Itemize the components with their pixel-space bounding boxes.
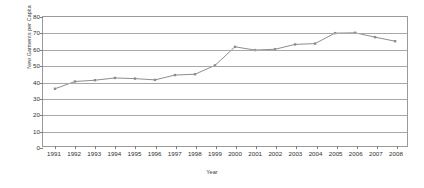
y-axis-tick-label: 10 <box>33 127 40 134</box>
data-point-marker <box>314 42 316 44</box>
x-axis-tick <box>196 146 197 149</box>
gridline <box>43 132 407 133</box>
gridline <box>43 83 407 84</box>
y-axis-tick <box>40 66 43 67</box>
y-axis-tick-label: 20 <box>33 111 40 118</box>
y-axis-tick <box>40 148 43 149</box>
y-axis-tick <box>40 50 43 51</box>
y-axis-tick-label: 30 <box>33 94 40 101</box>
x-axis-tick <box>317 146 318 149</box>
x-axis-tick <box>75 146 76 149</box>
x-axis-tick <box>357 146 358 149</box>
x-axis-tick <box>95 146 96 149</box>
data-point-marker <box>154 79 156 81</box>
x-axis-tick-label: 2001 <box>248 150 262 157</box>
x-axis-tick <box>115 146 116 149</box>
x-axis-tick-label: 2008 <box>389 150 403 157</box>
x-axis-tick <box>397 146 398 149</box>
data-point-marker <box>114 77 116 79</box>
x-axis-tick-labels: 1991199219931994199519961997199819992000… <box>42 150 408 164</box>
x-axis-tick-label: 2003 <box>289 150 303 157</box>
data-point-marker <box>394 40 396 42</box>
x-axis-tick <box>296 146 297 149</box>
x-axis-tick <box>377 146 378 149</box>
gridline <box>43 115 407 116</box>
x-axis-tick <box>156 146 157 149</box>
data-point-marker <box>174 74 176 76</box>
x-axis-tick-label: 1992 <box>67 150 81 157</box>
y-axis-tick-label: 50 <box>33 62 40 69</box>
y-axis-tick <box>40 83 43 84</box>
y-axis-tick <box>40 99 43 100</box>
x-axis-tick <box>216 146 217 149</box>
x-axis-tick-label: 1996 <box>148 150 162 157</box>
y-axis-tick <box>40 115 43 116</box>
x-axis-tick <box>135 146 136 149</box>
y-axis-tick-label: 40 <box>33 78 40 85</box>
x-axis-tick-label: 1995 <box>128 150 142 157</box>
data-point-marker <box>94 79 96 81</box>
x-axis-tick <box>55 146 56 149</box>
series-line <box>43 17 407 146</box>
x-axis-tick-label: 2000 <box>228 150 242 157</box>
x-axis-tick-label: 1999 <box>208 150 222 157</box>
gridline <box>43 99 407 100</box>
gridline <box>43 33 407 34</box>
gridline <box>43 66 407 67</box>
x-axis-tick-label: 1994 <box>107 150 121 157</box>
x-axis-tick-label: 2007 <box>369 150 383 157</box>
y-axis-tick-labels: 01020304050607080 <box>24 0 40 188</box>
data-point-marker <box>134 77 136 79</box>
x-axis-tick-label: 1997 <box>168 150 182 157</box>
y-axis-tick-label: 80 <box>33 13 40 20</box>
x-axis-tick-label: 1998 <box>188 150 202 157</box>
x-axis-tick-label: 1991 <box>47 150 61 157</box>
y-axis-tick-label: 60 <box>33 45 40 52</box>
x-axis-tick-label: 2005 <box>329 150 343 157</box>
x-axis-tick <box>236 146 237 149</box>
y-axis-tick-label: 0 <box>37 144 40 151</box>
y-axis-tick-label: 70 <box>33 29 40 36</box>
chart-container: New Garments per Capita 0102030405060708… <box>0 0 424 188</box>
plot-area <box>42 16 408 147</box>
x-axis-tick <box>337 146 338 149</box>
x-axis-tick-label: 2006 <box>349 150 363 157</box>
y-axis-tick <box>40 17 43 18</box>
data-point-marker <box>54 88 56 90</box>
y-axis-tick <box>40 132 43 133</box>
x-axis-tick <box>256 146 257 149</box>
data-point-marker <box>374 36 376 38</box>
x-axis-tick-label: 2002 <box>268 150 282 157</box>
data-point-marker <box>294 43 296 45</box>
data-point-marker <box>194 73 196 75</box>
gridline <box>43 50 407 51</box>
x-axis-tick-label: 1993 <box>87 150 101 157</box>
x-axis-tick <box>276 146 277 149</box>
data-point-marker <box>234 46 236 48</box>
y-axis-tick <box>40 33 43 34</box>
x-axis-tick-label: 2004 <box>309 150 323 157</box>
x-axis-tick <box>176 146 177 149</box>
x-axis-title: Year <box>0 169 424 175</box>
